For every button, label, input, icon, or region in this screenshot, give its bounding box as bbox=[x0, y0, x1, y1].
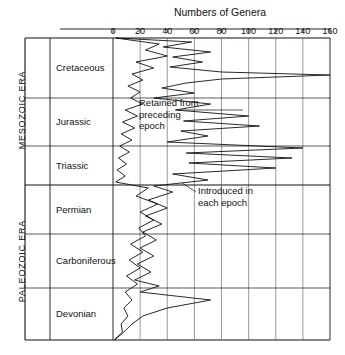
chart-canvas bbox=[0, 0, 345, 355]
epoch-label-triassic: Triassic bbox=[56, 160, 88, 171]
x-tick-160: 160 bbox=[319, 26, 341, 36]
epoch-label-jurassic: Jurassic bbox=[56, 116, 91, 127]
x-tick-40: 40 bbox=[156, 26, 178, 36]
x-tick-140: 140 bbox=[292, 26, 314, 36]
epoch-label-devonian: Devonian bbox=[56, 308, 96, 319]
x-tick-120: 120 bbox=[265, 26, 287, 36]
x-tick-60: 60 bbox=[183, 26, 205, 36]
era-label-mesozoic: MESOZOIC ERA bbox=[17, 66, 27, 154]
epoch-label-permian: Permian bbox=[56, 204, 91, 215]
x-tick-80: 80 bbox=[211, 26, 233, 36]
epoch-label-cretaceous: Cretaceous bbox=[56, 62, 105, 73]
era-label-paleozoic: PALEOZOIC ERA bbox=[17, 217, 27, 305]
annotation-retained: Retained from preceding epoch bbox=[139, 97, 199, 132]
x-tick-20: 20 bbox=[129, 26, 151, 36]
epoch-label-carboniferous: Carboniferous bbox=[56, 255, 116, 266]
x-tick-0: 0 bbox=[102, 26, 124, 36]
x-tick-100: 100 bbox=[238, 26, 260, 36]
genera-chart: Numbers of Genera 020406080100120140160 … bbox=[0, 0, 345, 355]
annotation-introduced: Introduced in each epoch bbox=[198, 185, 253, 208]
